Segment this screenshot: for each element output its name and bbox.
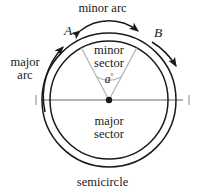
label-major-sector-line1: major	[74, 115, 144, 128]
label-major-arc-line2: arc	[2, 69, 48, 82]
label-minor-sector-line2: sector	[74, 57, 144, 70]
label-major-sector-line2: sector	[74, 128, 144, 141]
circle-parts-diagram: minor arc major arc minor sector major s…	[0, 0, 205, 195]
minor-arc-arrow	[80, 21, 138, 31]
label-major-arc-line1: major	[2, 56, 48, 69]
label-major-arc: major arc	[2, 56, 48, 82]
label-minor-sector-line1: minor	[74, 44, 144, 57]
label-minor-arc: minor arc	[0, 2, 205, 15]
degree-symbol: °	[110, 72, 113, 80]
diagram-canvas	[0, 0, 205, 195]
label-semicircle: semicircle	[0, 176, 205, 189]
centre-point	[106, 97, 112, 103]
label-minor-sector: minor sector	[74, 44, 144, 70]
label-point-b: B	[150, 26, 166, 40]
label-central-angle: a°	[96, 73, 122, 86]
label-major-sector: major sector	[74, 115, 144, 141]
label-point-a: A	[60, 24, 76, 38]
